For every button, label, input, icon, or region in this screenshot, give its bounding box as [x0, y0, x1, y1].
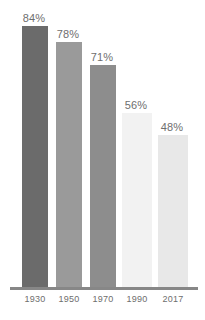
- x-tick-1930: 1930: [16, 294, 54, 304]
- x-tick-1990: 1990: [118, 294, 156, 304]
- x-tick-1970: 1970: [84, 294, 122, 304]
- bar-1990[interactable]: [122, 113, 152, 287]
- bar-group-2017[interactable]: 48%: [158, 121, 188, 287]
- bar-chart: 84% 78% 71% 56% 48% 1930 1950 1970 1990 …: [0, 0, 205, 320]
- x-axis-baseline: [10, 287, 198, 290]
- x-axis-labels: 1930 1950 1970 1990 2017: [0, 294, 205, 314]
- bar-value-label: 71%: [91, 51, 113, 64]
- bar-value-label: 78%: [57, 28, 79, 41]
- bar-value-label: 56%: [125, 99, 147, 112]
- bar-group-1970[interactable]: 71%: [90, 51, 116, 287]
- bar-value-label: 84%: [23, 12, 45, 25]
- bar-1930[interactable]: [22, 26, 48, 287]
- plot-area: 84% 78% 71% 56% 48%: [0, 0, 205, 287]
- bar-group-1930[interactable]: 84%: [22, 12, 48, 287]
- bar-value-label: 48%: [161, 121, 183, 134]
- bar-group-1990[interactable]: 56%: [122, 99, 152, 287]
- bar-1970[interactable]: [90, 65, 116, 287]
- bar-1950[interactable]: [56, 42, 82, 287]
- bar-2017[interactable]: [158, 135, 188, 287]
- bar-group-1950[interactable]: 78%: [56, 28, 82, 287]
- x-tick-2017: 2017: [154, 294, 192, 304]
- x-tick-1950: 1950: [50, 294, 88, 304]
